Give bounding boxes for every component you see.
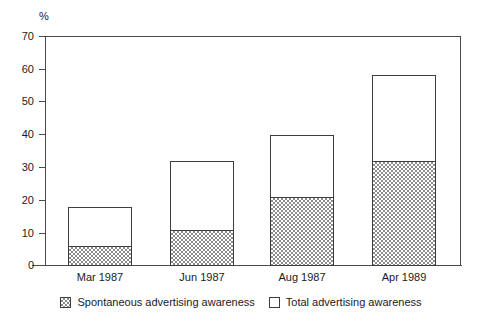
y-tick-label-40: 40 xyxy=(2,129,34,140)
bar-segment-spontaneous-apr-1989[interactable] xyxy=(372,161,436,266)
legend-item-total[interactable]: Total advertising awareness xyxy=(269,296,422,308)
y-tick-70 xyxy=(39,36,45,37)
y-tick-label-60: 60 xyxy=(2,64,34,75)
legend-label-total: Total advertising awareness xyxy=(286,296,422,308)
y-tick-label-20: 20 xyxy=(2,195,34,206)
y-tick-label-10: 10 xyxy=(2,228,34,239)
bar-group-apr-1989[interactable] xyxy=(372,75,436,266)
y-tick-60 xyxy=(39,69,45,70)
y-tick-label-50: 50 xyxy=(2,96,34,107)
y-tick-label-0: 0 xyxy=(2,260,34,271)
chart-legend: Spontaneous advertising awareness Total … xyxy=(0,296,482,308)
legend-item-spontaneous[interactable]: Spontaneous advertising awareness xyxy=(60,296,254,308)
y-tick-40 xyxy=(39,134,45,135)
x-axis-label-mar-1987: Mar 1987 xyxy=(50,271,150,284)
bar-group-mar-1987[interactable] xyxy=(68,207,132,266)
chart-page: % 70 60 50 40 30 20 10 0 Mar 1987 Jun 19… xyxy=(0,0,482,328)
y-tick-label-30: 30 xyxy=(2,162,34,173)
y-tick-50 xyxy=(39,101,45,102)
bar-segment-spontaneous-mar-1987[interactable] xyxy=(68,246,132,266)
y-tick-20 xyxy=(39,200,45,201)
y-tick-label-70: 70 xyxy=(2,31,34,42)
y-axis-unit-label: % xyxy=(39,10,49,22)
x-axis-label-apr-1989: Apr 1989 xyxy=(354,271,454,284)
legend-label-spontaneous: Spontaneous advertising awareness xyxy=(77,296,254,308)
x-axis-label-aug-1987: Aug 1987 xyxy=(252,271,352,284)
y-tick-10 xyxy=(39,233,45,234)
legend-swatch-white-icon xyxy=(269,297,280,308)
x-axis-label-jun-1987: Jun 1987 xyxy=(152,271,252,284)
legend-swatch-hatched-icon xyxy=(60,297,71,308)
y-tick-30 xyxy=(39,167,45,168)
bar-group-jun-1987[interactable] xyxy=(170,161,234,266)
y-tick-0 xyxy=(39,265,45,266)
bar-segment-spontaneous-aug-1987[interactable] xyxy=(270,197,334,266)
bar-segment-spontaneous-jun-1987[interactable] xyxy=(170,230,234,266)
bar-group-aug-1987[interactable] xyxy=(270,135,334,266)
